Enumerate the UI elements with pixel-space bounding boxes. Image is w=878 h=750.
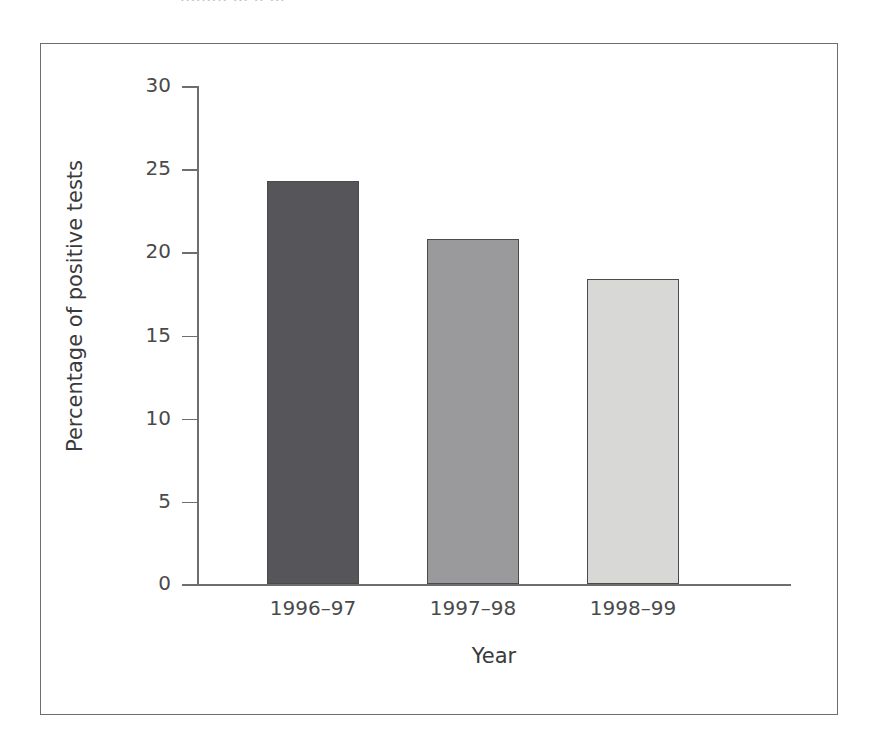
y-axis-tick-label: 0 [158,573,171,593]
y-axis-tick: 5 [182,502,197,504]
bar-chart-plot-area: 30 25 20 15 10 5 0 Percentage of positiv… [41,44,839,716]
cut-off-caption-text: ......... ... .. ... [180,0,285,5]
y-axis-tick: 15 [182,336,197,338]
x-axis-tick-label-1998-99: 1998–99 [573,596,693,620]
y-axis-line [197,86,199,585]
y-axis-tick-label: 10 [146,408,171,428]
x-axis-tick-label-1997-98: 1997–98 [413,596,533,620]
y-axis-tick-label: 30 [146,75,171,95]
y-axis-tick-label: 20 [146,241,171,261]
y-axis-tick-label: 25 [146,158,171,178]
x-axis-tick-label-1996-97: 1996–97 [253,596,373,620]
cut-off-caption-sliver: ......... ... .. ... [0,0,878,10]
bar-1998-99 [587,279,679,584]
x-axis-line [197,584,791,586]
y-axis-tick: 20 [182,252,197,254]
y-axis-tick: 25 [182,169,197,171]
x-axis-title: Year [197,644,791,668]
y-axis-tick-label: 15 [146,325,171,345]
y-axis-tick: 10 [182,419,197,421]
y-axis-tick: 30 [182,86,197,88]
bar-1996-97 [267,181,359,584]
bar-1997-98 [427,239,519,584]
y-axis-title: Percentage of positive tests [63,96,87,516]
figure-frame: 30 25 20 15 10 5 0 Percentage of positiv… [40,43,838,715]
y-axis-tick-label: 5 [158,491,171,511]
y-axis-tick: 0 [182,584,197,586]
